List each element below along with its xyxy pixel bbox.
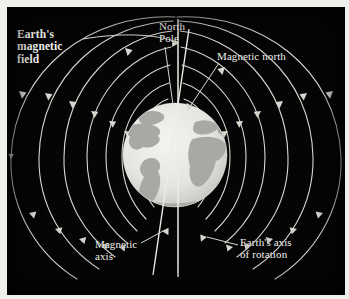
leader-arrow-icon (200, 234, 207, 241)
field-arrow-icon (254, 111, 261, 118)
field-arrow-icon (300, 93, 308, 101)
field-arrow-icon (45, 93, 53, 101)
field-arrow-icon (91, 111, 98, 118)
field-arrow-icon (79, 237, 86, 244)
field-arrow-icon (217, 67, 225, 75)
field-arrow-icon (316, 211, 323, 218)
leader-axis-rotation (207, 237, 238, 245)
field-arrow-icon (19, 91, 27, 99)
field-arrow-icon (226, 245, 233, 252)
field-arrow-icon (125, 48, 133, 56)
field-arrow-icon (326, 91, 334, 99)
field-arrow-icon (29, 211, 36, 218)
leader-north-pole (165, 47, 173, 105)
figure-root: Earth's magnetic field North Pole Magnet… (0, 0, 349, 299)
label-earths-magnetic-field: Earth's magnetic field (17, 28, 63, 65)
continent-madagascar (216, 182, 223, 195)
leader-arrow-icon (162, 228, 169, 235)
diagram-panel: Earth's magnetic field North Pole Magnet… (7, 7, 345, 295)
field-arrow-icon (276, 101, 283, 108)
label-magnetic-axis: Magnetic axis (95, 239, 137, 263)
leader-magnetic-axis (141, 231, 163, 243)
label-earths-axis-of-rotation: Earth's axis of rotation (240, 237, 292, 261)
label-north-pole: North Pole (159, 21, 185, 45)
field-arrow-icon (69, 101, 76, 108)
label-magnetic-north: Magnetic north (217, 51, 286, 63)
